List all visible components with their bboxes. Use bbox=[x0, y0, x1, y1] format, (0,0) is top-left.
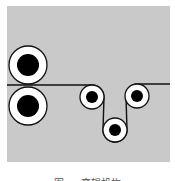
roller-core bbox=[17, 95, 39, 117]
roller-core bbox=[131, 90, 143, 102]
large-roller-top bbox=[9, 46, 47, 84]
roller-core bbox=[86, 91, 98, 103]
small-roller-left bbox=[80, 85, 104, 109]
figure-caption: 图 … 弯辊机构 bbox=[0, 175, 175, 181]
large-roller-bottom bbox=[9, 87, 47, 125]
small-roller-right bbox=[125, 84, 149, 108]
roller-core bbox=[17, 54, 39, 76]
small-roller-bottom bbox=[103, 118, 127, 142]
roller-core bbox=[109, 124, 121, 136]
roller-diagram-svg bbox=[0, 0, 175, 181]
